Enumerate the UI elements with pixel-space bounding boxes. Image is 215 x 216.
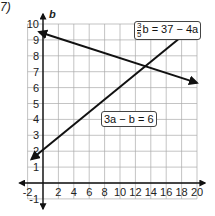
- y-tick-label: 7: [33, 66, 39, 78]
- y-tick-label: 1: [33, 161, 39, 173]
- equation-text-1: b = 37 − 4a: [142, 23, 198, 35]
- x-tick-label: 16: [160, 186, 172, 198]
- equation-text-2: 3a − b = 6: [104, 113, 154, 125]
- series-line-2: [31, 24, 197, 159]
- equation-label-2: 3a − b = 6: [101, 111, 157, 127]
- y-tick-label: -1: [29, 193, 39, 205]
- fraction: 35: [137, 22, 141, 39]
- x-tick-label: 10: [114, 186, 126, 198]
- x-tick-label: 12: [129, 186, 141, 198]
- y-tick-label: 5: [33, 98, 39, 110]
- y-tick-label: 6: [33, 82, 39, 94]
- fraction-denominator: 5: [137, 31, 141, 39]
- equation-label-1: 35b = 37 − 4a: [134, 21, 201, 40]
- x-tick-label: 8: [102, 186, 108, 198]
- x-tick-label: 6: [86, 186, 92, 198]
- x-tick-label: 18: [175, 186, 187, 198]
- y-tick-label: 3: [33, 129, 39, 141]
- x-tick-label: 14: [145, 186, 157, 198]
- y-tick-label: 4: [33, 113, 39, 125]
- y-tick-label: 9: [33, 34, 39, 46]
- y-tick-label: 8: [33, 50, 39, 62]
- y-tick-label: 10: [27, 18, 39, 30]
- y-axis-label: b: [49, 8, 56, 20]
- x-tick-label: 2: [55, 186, 61, 198]
- x-tick-label: 4: [71, 186, 77, 198]
- x-tick-label: 20: [191, 186, 203, 198]
